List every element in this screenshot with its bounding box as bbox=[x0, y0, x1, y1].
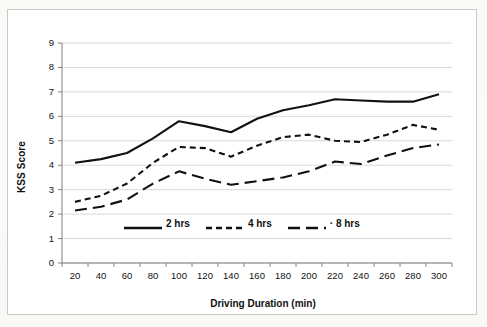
x-tick-label: 200 bbox=[296, 270, 322, 281]
x-tick-label: 300 bbox=[426, 270, 452, 281]
chart-legend: 2 hrs4 hrs· 8 hrs bbox=[124, 218, 376, 229]
chart-frame: KSS Score Driving Duration (min) 0123456… bbox=[7, 9, 477, 315]
x-tick-label: 280 bbox=[400, 270, 426, 281]
y-tick-label: 3 bbox=[40, 184, 54, 195]
legend-line-swatch bbox=[124, 219, 162, 229]
y-tick-label: 2 bbox=[40, 208, 54, 219]
x-tick-label: 260 bbox=[374, 270, 400, 281]
x-tick-label: 120 bbox=[192, 270, 218, 281]
y-tick-label: 1 bbox=[40, 233, 54, 244]
x-tick-label: 160 bbox=[244, 270, 270, 281]
x-tick-label: 140 bbox=[218, 270, 244, 281]
x-tick-label: 220 bbox=[322, 270, 348, 281]
legend-label: · 8 hrs bbox=[330, 218, 360, 229]
x-tick-label: 40 bbox=[88, 270, 114, 281]
legend-item-8-hrs[interactable]: · 8 hrs bbox=[288, 218, 360, 229]
legend-item-4-hrs[interactable]: 4 hrs bbox=[206, 218, 272, 229]
x-tick-label: 180 bbox=[270, 270, 296, 281]
legend-line-swatch bbox=[288, 219, 326, 229]
y-tick-label: 8 bbox=[40, 61, 54, 72]
figure-container: KSS Score Driving Duration (min) 0123456… bbox=[0, 0, 487, 327]
x-tick-label: 100 bbox=[166, 270, 192, 281]
legend-label: 4 hrs bbox=[248, 218, 272, 229]
y-tick-label: 9 bbox=[40, 37, 54, 48]
x-tick-label: 240 bbox=[348, 270, 374, 281]
y-tick-label: 6 bbox=[40, 110, 54, 121]
legend-item-2-hrs[interactable]: 2 hrs bbox=[124, 218, 190, 229]
series-line-8-hrs bbox=[75, 144, 439, 210]
legend-line-swatch bbox=[206, 219, 244, 229]
x-axis-title: Driving Duration (min) bbox=[68, 298, 458, 309]
y-tick-label: 4 bbox=[40, 159, 54, 170]
y-axis-title: KSS Score bbox=[16, 122, 27, 212]
series-line-4-hrs bbox=[75, 125, 439, 202]
x-tick-label: 20 bbox=[62, 270, 88, 281]
series-line-2-hrs bbox=[75, 94, 439, 162]
y-tick-label: 7 bbox=[40, 86, 54, 97]
x-tick-label: 80 bbox=[140, 270, 166, 281]
y-tick-label: 5 bbox=[40, 135, 54, 146]
legend-label: 2 hrs bbox=[166, 218, 190, 229]
y-tick-label: 0 bbox=[40, 257, 54, 268]
x-tick-label: 60 bbox=[114, 270, 140, 281]
